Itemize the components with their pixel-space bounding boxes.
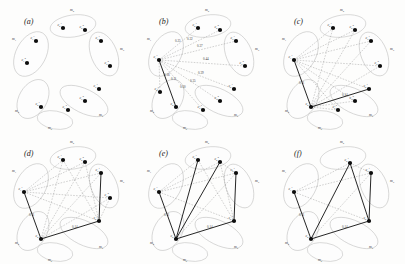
cluster-ellipse — [276, 26, 325, 82]
graph-node — [243, 64, 247, 68]
graph-node — [108, 196, 112, 200]
cluster-label: m1 — [12, 169, 17, 174]
graph-node — [309, 237, 313, 241]
cluster-ellipse — [83, 28, 124, 80]
edge-weight-label: 0.11 — [164, 213, 170, 217]
edge-weight-label: 0.16 — [164, 73, 170, 77]
cluster-ellipse — [319, 12, 368, 40]
edge-weight-label: 0.11 — [171, 77, 177, 81]
cluster-label: m3 — [390, 47, 395, 52]
figure-panel-grid: (a)m1c11c12m2c21c22m3c31c32m4c41c42c43m5… — [0, 0, 405, 264]
graph-node — [367, 219, 371, 223]
graph-node — [232, 87, 236, 91]
graph-node — [34, 39, 38, 43]
graph-node — [331, 26, 335, 30]
cluster-ellipse — [184, 12, 233, 40]
cluster-ellipse — [49, 144, 98, 172]
cluster-label: m1 — [282, 169, 287, 174]
graph-node — [108, 64, 112, 68]
cluster-label: m1 — [282, 37, 287, 42]
panel-e: (e)0.110.14m1c11m2c21c22m3c31m4c41m5c51m… — [135, 132, 270, 264]
graph-node — [99, 39, 103, 43]
graph-node — [378, 64, 382, 68]
graph-node — [369, 171, 373, 175]
graph-node — [336, 108, 340, 112]
cluster-label: m2 — [70, 140, 75, 145]
graph-node — [309, 105, 313, 109]
cluster-label: m3 — [255, 47, 260, 52]
edge-weight-label: 0.32 — [187, 37, 193, 41]
graph-node — [196, 26, 200, 30]
panel-letter: (b) — [159, 17, 169, 26]
cluster-label: m3 — [120, 47, 125, 52]
cluster-ellipse — [6, 26, 55, 82]
cluster-label: m2 — [340, 8, 345, 13]
graph-node — [348, 161, 352, 165]
cluster-ellipse — [184, 144, 233, 172]
cluster-ellipse — [353, 160, 394, 212]
cluster-ellipse — [141, 158, 190, 214]
graph-node — [218, 160, 222, 164]
cluster-ellipse — [319, 144, 368, 172]
graph-node — [97, 87, 101, 91]
graph-node — [353, 99, 357, 103]
cluster-ellipse — [6, 158, 55, 214]
edge-weight-label: 0.11 — [29, 213, 35, 217]
cluster-label: m3 — [120, 179, 125, 184]
cluster-ellipse — [171, 240, 210, 264]
cluster-ellipse — [306, 240, 345, 264]
cluster-label: m2 — [205, 140, 210, 145]
edge-weight-label: 0.37 — [197, 44, 203, 48]
graph-node — [369, 39, 373, 43]
graph-node — [353, 28, 357, 32]
edge-weight-label: 0.25 — [175, 39, 181, 43]
graph-node — [83, 28, 87, 32]
edge-weight-label: 0.14 — [207, 225, 213, 229]
graph-node — [25, 61, 29, 65]
cluster-label: m3 — [255, 179, 260, 184]
panel-letter: (c) — [294, 17, 303, 26]
edge-weight-label: 0.11 — [299, 213, 305, 217]
edge-weight-label: 0.14 — [342, 93, 348, 97]
edge-weight-label: 0.39 — [198, 71, 204, 75]
panel-letter: (a) — [24, 17, 34, 26]
edge-weight-label: 0.14 — [72, 225, 78, 229]
cluster-label: m1 — [147, 37, 152, 42]
cluster-label: m2 — [205, 8, 210, 13]
graph-node — [234, 171, 238, 175]
graph-node — [39, 105, 43, 109]
panel-letter: (e) — [159, 149, 168, 158]
graph-node — [157, 190, 161, 194]
graph-node — [83, 99, 87, 103]
panel-c: (c)0.140.11m1c11m2c21c22m3c31c32m4c41c42… — [270, 0, 405, 132]
graph-node — [83, 160, 87, 164]
graph-node — [201, 108, 205, 112]
cluster-label: m3 — [390, 179, 395, 184]
graph-node — [61, 158, 65, 162]
cluster-label: m1 — [147, 169, 152, 174]
cluster-label: m2 — [70, 8, 75, 13]
edge-weight-label: 0.30 — [180, 85, 186, 89]
panel-letter: (d) — [24, 149, 34, 158]
cluster-ellipse — [218, 28, 259, 80]
graph-node — [218, 28, 222, 32]
edge-weight-label: 0.44 — [203, 57, 209, 61]
panel-f: (f)0.110.14m1c11m2c21m3c31m4c41m5c51m6 — [270, 132, 405, 264]
panel-a: (a)m1c11c12m2c21c22m3c31c32m4c41c42c43m5… — [0, 0, 135, 132]
edge-weight-label: 0.11 — [299, 81, 305, 85]
cluster-ellipse — [276, 158, 325, 214]
cluster-ellipse — [218, 160, 259, 212]
graph-node — [174, 105, 178, 109]
graph-node — [66, 108, 70, 112]
graph-node — [367, 87, 371, 91]
edge-weight-label: 0.14 — [342, 225, 348, 229]
graph-node — [234, 39, 238, 43]
cluster-ellipse — [49, 12, 98, 40]
graph-node — [196, 158, 200, 162]
cluster-label: m2 — [340, 140, 345, 145]
graph-node — [39, 237, 43, 241]
panel-b: (b)0.250.320.370.440.390.350.300.160.11m… — [135, 0, 270, 132]
panel-d: (d)0.110.14m1c11m2c21c22m3c31c32m4c41m5c… — [0, 132, 135, 264]
graph-node — [232, 219, 236, 223]
graph-node — [218, 99, 222, 103]
